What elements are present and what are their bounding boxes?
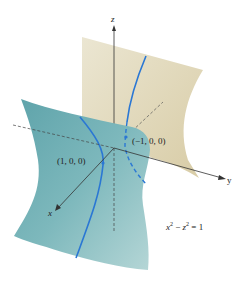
equation-label: x2 − z2 = 1 bbox=[165, 221, 203, 232]
hyperbolic-cylinder-diagram: z y x (1, 0, 0) (−1, 0, 0) x2 − z2 = 1 bbox=[0, 0, 241, 282]
point-label-1-0-0: (1, 0, 0) bbox=[57, 156, 86, 166]
point-neg1-0-0 bbox=[124, 135, 127, 138]
y-axis-arrow-icon bbox=[218, 175, 226, 180]
point-label-neg1-0-0: (−1, 0, 0) bbox=[132, 136, 166, 146]
point-1-0-0 bbox=[101, 161, 104, 164]
z-axis-label: z bbox=[110, 14, 115, 24]
z-axis-arrow-icon bbox=[112, 25, 116, 31]
y-axis-label: y bbox=[227, 175, 232, 185]
x-axis-label: x bbox=[47, 208, 52, 218]
